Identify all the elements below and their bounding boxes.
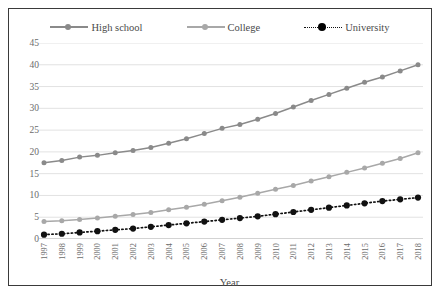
legend-key-university-icon [304, 22, 342, 32]
x-tick-label: 2005 [182, 243, 191, 260]
y-tick-label: 10 [30, 190, 40, 200]
x-tick-label: 2002 [129, 243, 138, 260]
legend-label-high-school: High school [91, 22, 142, 33]
x-tick-label: 2003 [147, 243, 156, 260]
legend-item-high-school[interactable]: High school [50, 22, 142, 33]
x-tick-label: 2006 [200, 243, 209, 260]
x-axis-title: Year [9, 277, 441, 288]
x-tick-label: 1999 [76, 243, 85, 260]
x-tick-label: 2011 [289, 243, 298, 259]
y-tick-label: 45 [30, 38, 40, 48]
x-tick-label: 2004 [165, 243, 174, 260]
x-tick-label: 2009 [254, 243, 263, 260]
y-tick-label: 15 [30, 169, 40, 179]
plot-area [39, 43, 423, 239]
x-tick-label: 2017 [396, 243, 405, 260]
legend-key-high-school-icon [50, 22, 88, 32]
x-axis-tick-labels: 1997199819992000200120022003200420052006… [39, 241, 423, 279]
chart-legend: High school College University [9, 18, 431, 36]
legend-label-university: University [345, 22, 389, 33]
y-tick-label: 20 [30, 147, 40, 157]
x-tick-label: 2015 [361, 243, 370, 260]
y-tick-label: 35 [30, 82, 40, 92]
plot-svg [39, 43, 423, 239]
chart-frame: High school College University 454035302… [8, 8, 432, 286]
x-tick-label: 1998 [58, 243, 67, 260]
y-axis-tick-labels: 454035302520151050 [17, 43, 39, 239]
x-tick-label: 2012 [307, 243, 316, 260]
legend-item-college[interactable]: College [187, 22, 261, 33]
legend-item-university[interactable]: University [304, 22, 389, 33]
legend-key-college-icon [187, 22, 225, 32]
x-tick-label: 2007 [218, 243, 227, 260]
x-tick-label: 2008 [236, 243, 245, 260]
x-tick-label: 1997 [40, 243, 49, 260]
legend-label-college: College [228, 22, 261, 33]
x-tick-label: 2013 [325, 243, 334, 260]
x-tick-label: 2001 [111, 243, 120, 260]
x-tick-label: 2014 [343, 243, 352, 260]
x-tick-label: 2000 [93, 243, 102, 260]
x-tick-label: 2016 [378, 243, 387, 260]
figure-caption [0, 292, 441, 301]
y-tick-label: 40 [30, 60, 40, 70]
chart-figure: High school College University 454035302… [0, 0, 441, 301]
x-tick-label: 2010 [272, 243, 281, 260]
y-tick-label: 30 [30, 103, 40, 113]
x-tick-label: 2018 [414, 243, 423, 260]
y-tick-label: 25 [30, 125, 40, 135]
